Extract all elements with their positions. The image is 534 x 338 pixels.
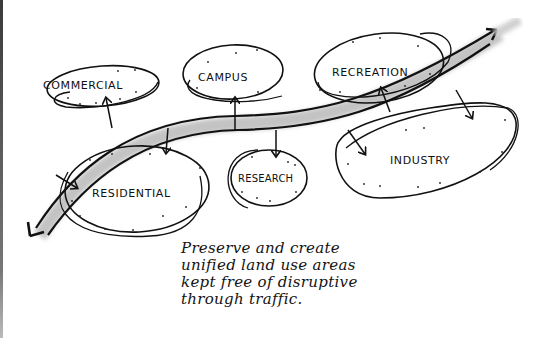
caption-line: through traffic.	[181, 291, 481, 308]
caption-line: kept free of disruptive	[181, 274, 481, 291]
label-residential: RESIDENTIAL	[92, 187, 171, 200]
label-commercial: COMMERCIAL	[43, 79, 123, 92]
label-research: RESEARCH	[238, 173, 293, 184]
zone-commercial: COMMERCIAL	[43, 62, 160, 128]
label-industry: INDUSTRY	[390, 154, 450, 167]
diagram-canvas: COMMERCIAL CAMPUS RECREATION RESIDENTIAL	[0, 0, 534, 338]
caption-note: Preserve and create unified land use are…	[181, 240, 481, 308]
caption-line: unified land use areas	[181, 257, 481, 274]
through-traffic-road	[28, 20, 520, 236]
access-arrow-industry-left-icon	[348, 130, 365, 154]
label-campus: CAMPUS	[198, 71, 248, 84]
zone-research: RESEARCH	[228, 130, 307, 208]
caption-line: Preserve and create	[181, 240, 481, 257]
label-recreation: RECREATION	[332, 66, 408, 79]
access-arrow-commercial-icon	[106, 98, 112, 128]
